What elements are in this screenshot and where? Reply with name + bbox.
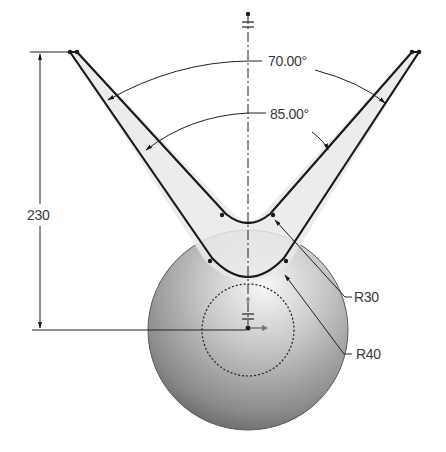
dimension-radius-inner-label[interactable]: R30: [354, 289, 379, 305]
dimension-angle-outer[interactable]: [108, 61, 385, 103]
dimension-angle-inner-label[interactable]: 85.00°: [270, 106, 309, 122]
dimension-angle-outer-label[interactable]: 70.00°: [268, 53, 307, 69]
dimension-radius-outer-label[interactable]: R40: [356, 346, 381, 362]
dimension-height-label[interactable]: 230: [26, 207, 50, 223]
sketch-canvas: [0, 0, 446, 452]
v-slot-profile[interactable]: [70, 52, 419, 281]
